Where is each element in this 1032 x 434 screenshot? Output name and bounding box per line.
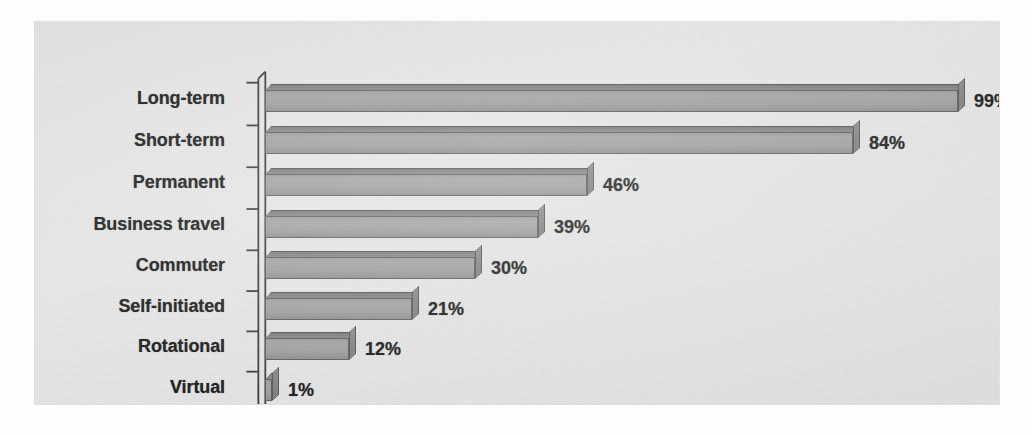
bar-front-face-business-travel — [265, 216, 538, 238]
bar-end-cap-virtual — [272, 367, 279, 401]
bar-virtual: 1% — [265, 373, 399, 401]
bar-end-cap-self-initiated — [412, 286, 419, 320]
bar-end-cap-rotational — [349, 326, 356, 360]
bar-front-face-short-term — [265, 132, 853, 154]
bar-long-term: 99% — [265, 84, 1000, 112]
bar-front-face-permanent — [265, 174, 587, 196]
bar-end-cap-commuter — [475, 245, 482, 279]
chart-figure: Long-termShort-termPermanentBusiness tra… — [0, 0, 1032, 434]
bar-end-cap-business-travel — [538, 204, 545, 238]
bar-value-label-rotational: 12% — [365, 338, 401, 360]
bar-end-cap-short-term — [853, 120, 860, 154]
bar-value-label-commuter: 30% — [491, 257, 527, 279]
bar-permanent: 46% — [265, 168, 714, 196]
bar-end-cap-permanent — [587, 162, 594, 196]
bar-front-face-commuter — [265, 257, 475, 279]
bars-layer: 99%84%46%39%30%21%12%1% — [35, 22, 999, 404]
bar-self-initiated: 21% — [265, 292, 539, 320]
bar-front-face-long-term — [265, 90, 958, 112]
bar-value-label-permanent: 46% — [603, 174, 639, 196]
bar-front-face-virtual — [265, 379, 272, 401]
bar-value-label-self-initiated: 21% — [428, 298, 464, 320]
bar-business-travel: 39% — [265, 210, 665, 238]
bar-value-label-virtual: 1% — [288, 379, 314, 401]
bar-value-label-business-travel: 39% — [554, 216, 590, 238]
bar-front-face-rotational — [265, 338, 349, 360]
bar-short-term: 84% — [265, 126, 980, 154]
bar-rotational: 12% — [265, 332, 476, 360]
bar-value-label-short-term: 84% — [869, 132, 905, 154]
chart-plot-area: Long-termShort-termPermanentBusiness tra… — [34, 21, 1000, 405]
bar-value-label-long-term: 99% — [974, 90, 1000, 112]
bar-end-cap-long-term — [958, 78, 965, 112]
bar-commuter: 30% — [265, 251, 602, 279]
bar-front-face-self-initiated — [265, 298, 412, 320]
